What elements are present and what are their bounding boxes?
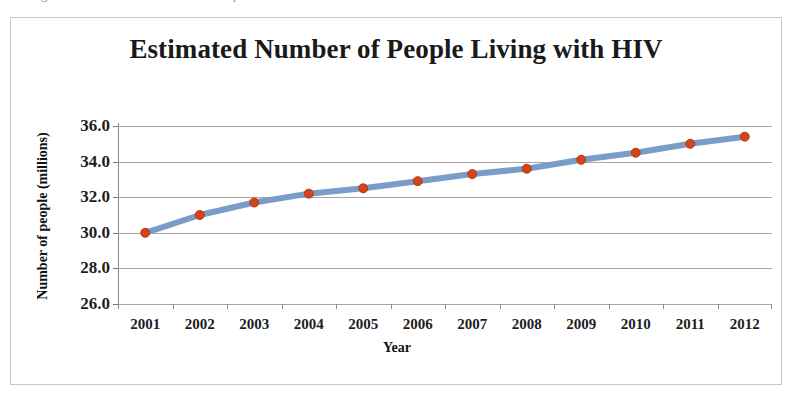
x-tick-label: 2004 [294, 316, 324, 333]
data-point-marker [468, 170, 477, 179]
x-tick-label: 2010 [621, 316, 651, 333]
clipped-top-text: the figure below shows the trend over th… [14, 0, 784, 3]
data-point-marker [686, 139, 695, 148]
x-tick-mark [336, 304, 337, 309]
y-tick-label: 30.0 [80, 223, 110, 243]
data-point-marker [577, 155, 586, 164]
y-tick-label: 32.0 [80, 187, 110, 207]
x-tick-mark [500, 304, 501, 309]
x-tick-mark [118, 304, 119, 309]
y-tick-label: 34.0 [80, 152, 110, 172]
data-point-marker [141, 228, 150, 237]
y-axis-title: Number of people (millions) [35, 116, 51, 316]
plot-area: 26.028.030.032.034.036.0 200120022003200… [118, 126, 772, 304]
data-series-line [118, 126, 772, 304]
x-tick-label: 2002 [185, 316, 215, 333]
data-point-marker [522, 164, 531, 173]
x-tick-mark [663, 304, 664, 309]
data-point-marker [740, 132, 749, 141]
data-point-marker [195, 211, 204, 220]
x-tick-mark [391, 304, 392, 309]
x-tick-label: 2005 [348, 316, 378, 333]
clipped-top-text-row: the figure below shows the trend over th… [0, 0, 799, 12]
x-tick-label: 2007 [457, 316, 487, 333]
x-tick-mark [227, 304, 228, 309]
y-tick-label: 26.0 [80, 294, 110, 314]
x-tick-label: 2008 [512, 316, 542, 333]
x-tick-label: 2012 [730, 316, 760, 333]
chart-title: Estimated Number of People Living with H… [71, 32, 721, 66]
x-tick-mark [718, 304, 719, 309]
x-tick-mark [282, 304, 283, 309]
y-tick-label: 28.0 [80, 258, 110, 278]
data-point-marker [250, 198, 259, 207]
x-tick-label: 2011 [676, 316, 705, 333]
data-point-marker [359, 184, 368, 193]
x-tick-mark [173, 304, 174, 309]
data-point-marker [631, 148, 640, 157]
x-tick-label: 2009 [566, 316, 596, 333]
x-tick-label: 2006 [403, 316, 433, 333]
chart-figure-frame: Estimated Number of People Living with H… [10, 17, 782, 385]
x-tick-label: 2003 [239, 316, 269, 333]
y-tick-label: 36.0 [80, 116, 110, 136]
x-tick-mark [609, 304, 610, 309]
x-tick-mark [554, 304, 555, 309]
data-point-marker [413, 177, 422, 186]
x-tick-label: 2001 [130, 316, 160, 333]
x-tick-mark [771, 304, 772, 309]
data-point-marker [304, 189, 313, 198]
x-tick-mark [445, 304, 446, 309]
x-axis-title: Year [11, 340, 783, 356]
series-polyline [145, 137, 745, 233]
